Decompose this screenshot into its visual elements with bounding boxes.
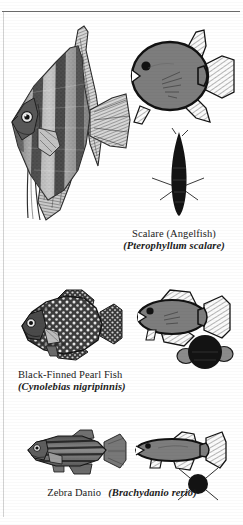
- caption-common-name: Scalare (Angelfish): [108, 228, 240, 240]
- fish-plate-page: Scalare (Angelfish) (Pterophyllum scalar…: [0, 0, 243, 525]
- angelfish-side-diagram: [118, 28, 240, 126]
- caption-scientific-name: (Pterophyllum scalare): [108, 240, 240, 252]
- danio-engraving: [24, 428, 128, 476]
- caption-scientific-name: (Cynolebias nigripinnis): [18, 381, 204, 393]
- angelfish-engraving: [4, 24, 132, 224]
- pearlfish-front-silhouette: [176, 332, 234, 372]
- caption-common-name: Zebra Danio: [47, 487, 101, 498]
- caption-common-name: Black-Finned Pearl Fish: [18, 369, 204, 381]
- pearlfish-engraving: [16, 286, 124, 362]
- angelfish-front-silhouette: [146, 128, 212, 220]
- caption-zebra-danio: Zebra Danio (Brachydanio rerio): [8, 482, 236, 501]
- top-divider-rule: [2, 11, 240, 12]
- caption-scientific-name: (Brachydanio rerio): [108, 487, 197, 498]
- caption-pearl-fish: Black-Finned Pearl Fish (Cynolebias nigr…: [18, 369, 204, 394]
- caption-scalare: Scalare (Angelfish) (Pterophyllum scalar…: [108, 228, 240, 253]
